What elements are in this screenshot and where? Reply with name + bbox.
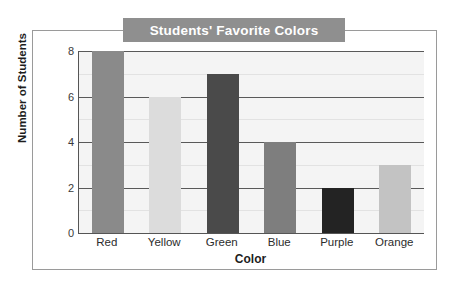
y-axis-title: Number of Students — [16, 28, 28, 148]
bar-purple — [322, 188, 354, 234]
y-tick-label: 4 — [52, 136, 74, 148]
y-tick-label: 6 — [52, 91, 74, 103]
x-axis-title: Color — [78, 252, 423, 266]
y-tick-label: 8 — [52, 45, 74, 57]
bars-container — [79, 51, 424, 233]
bar-red — [92, 51, 124, 233]
x-tick-label-yellow: Yellow — [136, 236, 194, 248]
y-tick-label: 0 — [52, 227, 74, 239]
y-tick-label: 2 — [52, 182, 74, 194]
chart-title: Students' Favorite Colors — [150, 23, 319, 38]
x-tick-label-purple: Purple — [308, 236, 366, 248]
x-tick-label-orange: Orange — [366, 236, 424, 248]
bar-green — [207, 74, 239, 233]
bar-yellow — [149, 97, 181, 234]
x-tick-label-green: Green — [193, 236, 251, 248]
bar-orange — [379, 165, 411, 233]
y-axis-tick-labels: 02468 — [52, 51, 74, 233]
x-axis-tick-labels: RedYellowGreenBluePurpleOrange — [78, 236, 423, 252]
plot-area — [78, 51, 424, 234]
chart-figure: Students' Favorite Colors 02468 Number o… — [0, 0, 460, 288]
x-tick-label-blue: Blue — [251, 236, 309, 248]
x-tick-label-red: Red — [78, 236, 136, 248]
bar-blue — [264, 142, 296, 233]
chart-title-banner: Students' Favorite Colors — [123, 18, 345, 42]
